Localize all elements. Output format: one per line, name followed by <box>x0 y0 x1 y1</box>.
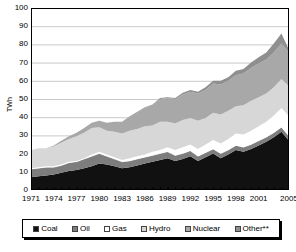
plot-svg <box>31 8 289 190</box>
y-tick-label: 100 <box>15 4 28 12</box>
legend-label: Hydro <box>149 224 170 233</box>
legend-item-other[interactable]: Other** <box>235 224 269 233</box>
legend-label: Coal <box>41 224 57 233</box>
legend-item-oil[interactable]: Oil <box>72 224 90 233</box>
chart-legend: CoalOilGasHydroNuclearOther** <box>22 219 280 238</box>
legend-item-coal[interactable]: Coal <box>33 224 57 233</box>
y-tick-label: 60 <box>19 77 28 85</box>
y-tick-label: 30 <box>19 131 28 139</box>
legend-label: Other** <box>243 224 269 233</box>
legend-item-gas[interactable]: Gas <box>104 224 127 233</box>
legend-swatch <box>72 226 78 232</box>
x-axis-tick-labels: 1971197419771980198319861989199219951998… <box>0 192 296 208</box>
y-tick-label: 20 <box>19 150 28 158</box>
y-tick-label: 40 <box>19 113 28 121</box>
legend-swatch <box>141 226 147 232</box>
legend-label: Gas <box>112 224 127 233</box>
legend-swatch <box>33 226 39 232</box>
legend-swatch <box>185 226 191 232</box>
legend-swatch <box>235 226 241 232</box>
y-tick-label: 90 <box>19 22 28 30</box>
plot-area <box>31 8 289 190</box>
y-tick-label: 70 <box>19 59 28 67</box>
y-tick-label: 80 <box>19 40 28 48</box>
legend-label: Oil <box>80 224 90 233</box>
y-axis-tick-labels: 0102030405060708090100 <box>0 0 28 200</box>
y-tick-label: 50 <box>19 95 28 103</box>
legend-swatch <box>104 226 110 232</box>
y-tick-label: 10 <box>19 168 28 176</box>
x-tick-label: 2001 <box>246 194 272 204</box>
legend-item-nuclear[interactable]: Nuclear <box>185 224 221 233</box>
legend-label: Nuclear <box>193 224 221 233</box>
legend-item-hydro[interactable]: Hydro <box>141 224 170 233</box>
x-tick-label: 2005 <box>276 194 296 204</box>
stacked-area-chart: TWh 0102030405060708090100 1971197419771… <box>0 0 296 252</box>
